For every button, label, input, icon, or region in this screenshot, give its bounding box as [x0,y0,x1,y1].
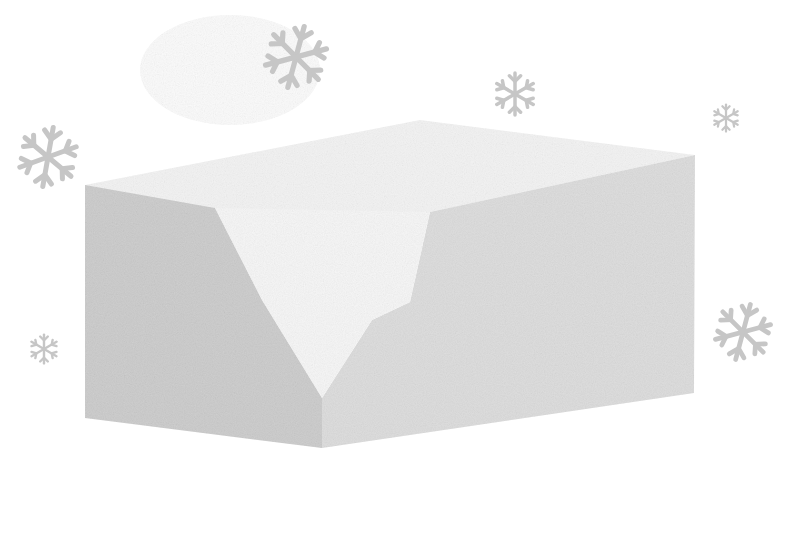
snowflake-icon [497,73,533,115]
illustration-canvas [0,0,785,546]
snowflake-icon [17,123,79,191]
notched-block [85,120,695,448]
snowflake-icon [712,298,774,366]
snowflake-icon [32,335,57,364]
snowflake-icon [714,105,737,132]
illustration-scene [0,0,785,546]
